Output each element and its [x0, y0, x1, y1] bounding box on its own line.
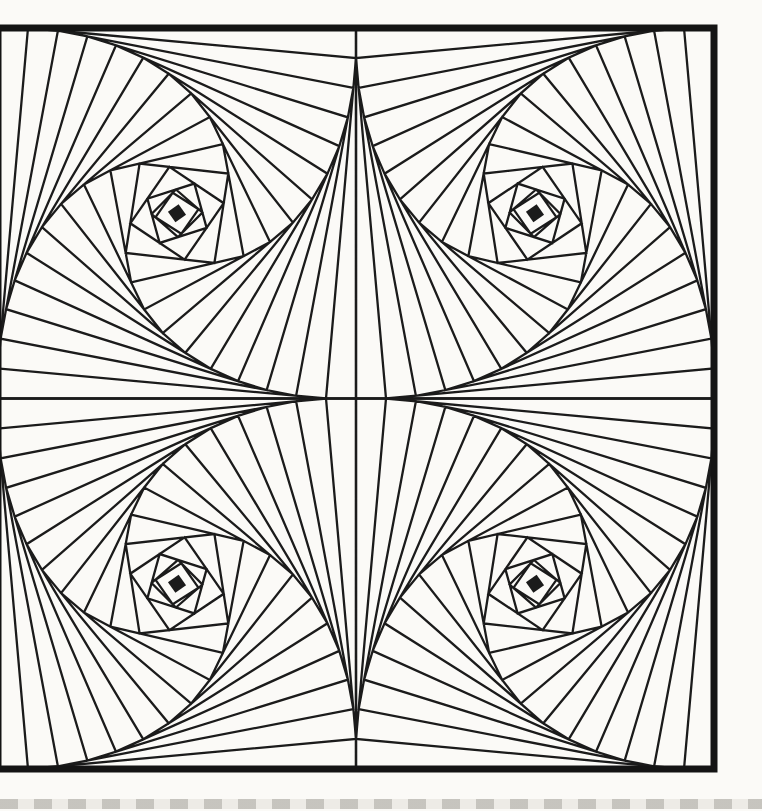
- spiral-core-dot: [168, 204, 186, 222]
- tile-top-left: [0, 28, 356, 399]
- pursuit-spiral-artwork: [0, 0, 762, 811]
- scanned-page: [0, 0, 762, 811]
- spiral-core-dot: [168, 575, 186, 593]
- tile-top-right: [356, 28, 714, 399]
- spiral-core-dot: [526, 575, 544, 593]
- tile-bottom-left: [0, 399, 356, 770]
- spiral-core-dot: [526, 204, 544, 222]
- tile-bottom-right: [356, 399, 714, 770]
